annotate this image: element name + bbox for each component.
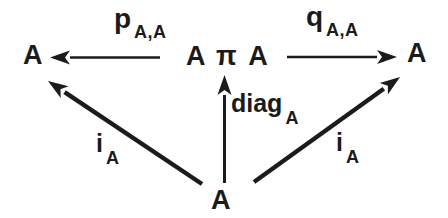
right-projection-label-sub: A,A [326,21,359,39]
right-projection-label-main: q [306,3,323,31]
right-projection-label: q A,A [306,3,359,31]
right-injection-label-sub: A [346,148,360,166]
node-center-product: A π A [186,43,258,70]
left-injection-label-main: i [96,131,103,156]
left-projection-label: p A,A [114,5,167,33]
right-injection-label-main: i [336,130,343,155]
node-bottom-A: A [211,187,231,214]
diagonal-map-label: diag A [231,91,299,116]
left-projection-label-main: p [114,5,131,33]
diagonal-map-label-main: diag [231,91,282,116]
product-diagram-figure: A A π A A A p A,A q A,A diag A i A i A [0,0,448,218]
right-injection-label: i A [336,130,359,155]
diagonal-map-label-sub: A [285,109,299,127]
left-injection-arrow [65,92,202,184]
left-projection-label-sub: A,A [134,23,167,41]
left-injection-label: i A [96,131,119,156]
node-top-left-A: A [23,42,43,69]
left-injection-label-sub: A [106,149,120,167]
node-top-right-A: A [407,40,427,67]
